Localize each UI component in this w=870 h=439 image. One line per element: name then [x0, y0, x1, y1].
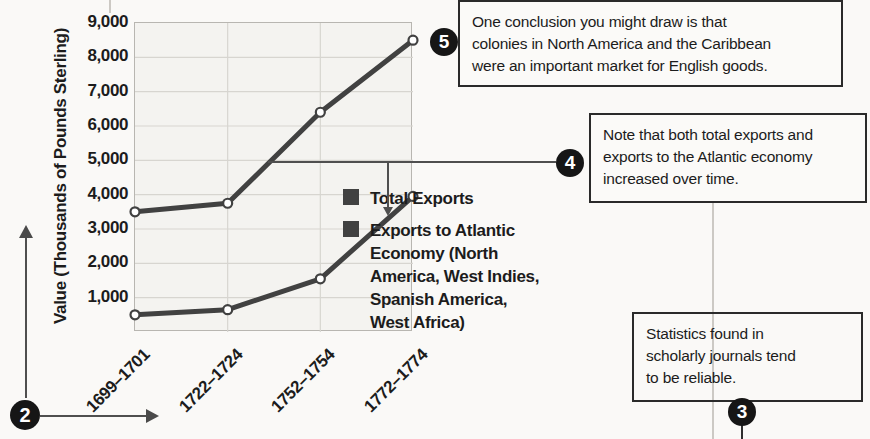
- callout-badge-5: 5: [430, 28, 458, 56]
- callout2-right-arrowhead-icon: [146, 409, 159, 423]
- callout-badge-4: 4: [556, 149, 584, 177]
- y-tick-label: 9,000: [56, 12, 128, 32]
- y-tick-label: 5,000: [56, 149, 128, 169]
- text-line: colonies in North America and the Caribb…: [472, 33, 831, 55]
- text-line: Economy (North: [370, 242, 539, 265]
- callout-box-5: One conclusion you might draw is thatcol…: [458, 0, 843, 87]
- text-line: One conclusion you might draw is that: [472, 11, 831, 33]
- callout-badge-2: 2: [10, 400, 40, 430]
- callout3-tail-line: [741, 425, 743, 439]
- callout4-leader-line: [268, 161, 556, 163]
- y-tick-label: 4,000: [56, 184, 128, 204]
- y-tick-label: 6,000: [56, 115, 128, 135]
- data-point: [409, 36, 418, 45]
- text-line: Exports to Atlantic: [370, 219, 539, 242]
- data-point: [131, 207, 140, 216]
- text-line: Note that both total exports and: [603, 124, 855, 146]
- data-point: [223, 199, 232, 208]
- text-line: scholarly journals tend: [646, 345, 851, 367]
- text-line: to be reliable.: [646, 367, 851, 389]
- legend-label-atlantic-exports: Exports to AtlanticEconomy (NorthAmerica…: [370, 219, 539, 334]
- text-line: were an important market for English goo…: [472, 55, 831, 77]
- data-point: [131, 310, 140, 319]
- legend-swatch-atlantic-exports: [343, 221, 359, 237]
- data-point: [316, 274, 325, 283]
- annotated-exports-chart-page: Value (Thousands of Pounds Sterling) 1,0…: [0, 0, 870, 439]
- data-point: [223, 305, 232, 314]
- legend-swatch-total-exports: [343, 189, 359, 205]
- callout2-vertical-arrow-shaft: [25, 236, 27, 398]
- callout2-horizontal-arrow-shaft: [40, 415, 146, 417]
- data-point: [316, 108, 325, 117]
- callout-badge-3: 3: [728, 398, 756, 426]
- callout4-down-arrowhead-icon: [383, 207, 393, 216]
- text-line: exports to the Atlantic economy: [603, 146, 855, 168]
- text-line: West Africa): [370, 311, 539, 334]
- text-line: Statistics found in: [646, 323, 851, 345]
- x-tick-label: 1772–1774: [351, 345, 432, 426]
- text-line: increased over time.: [603, 168, 855, 190]
- y-tick-label: 2,000: [56, 252, 128, 272]
- callout-box-4: Note that both total exports andexports …: [589, 113, 867, 203]
- text-line: Spanish America,: [370, 288, 539, 311]
- y-tick-label: 1,000: [56, 287, 128, 307]
- callout4-drop-line: [387, 162, 389, 208]
- text-line: America, West Indies,: [370, 265, 539, 288]
- x-tick-label: 1752–1754: [258, 345, 339, 426]
- y-tick-label: 7,000: [56, 81, 128, 101]
- callout-box-3: Statistics found inscholarly journals te…: [632, 312, 863, 402]
- y-tick-label: 3,000: [56, 218, 128, 238]
- y-tick-label: 8,000: [56, 46, 128, 66]
- callout2-up-arrowhead-icon: [19, 225, 33, 238]
- x-tick-label: 1722–1724: [165, 345, 246, 426]
